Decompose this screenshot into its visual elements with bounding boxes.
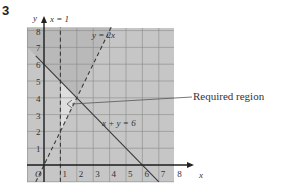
x-tick-label: 2 xyxy=(79,169,84,179)
origin-label: O xyxy=(35,169,42,179)
required-region-label: Required region xyxy=(193,90,265,102)
y-axis-label: y xyxy=(32,13,37,23)
x-tick-label: 3 xyxy=(95,169,100,179)
y-tick-label: 3 xyxy=(36,111,41,121)
line-label-x-plus-y-6: x + y = 6 xyxy=(101,118,136,128)
y-tick-label: 4 xyxy=(36,94,41,104)
y-tick-label: 1 xyxy=(36,144,41,154)
y-tick-label: 5 xyxy=(36,77,41,87)
line-label-x-1: x = 1 xyxy=(49,14,69,24)
x-tick-label: 4 xyxy=(112,169,117,179)
x-tick-label: 7 xyxy=(161,169,166,179)
y-tick-label: 7 xyxy=(36,43,41,53)
x-tick-label: 8 xyxy=(177,169,182,179)
x-axis-arrow-icon xyxy=(187,162,194,168)
inequality-graph: 1234567812345678Oxyx = 1y = 2xx + y = 6 … xyxy=(0,0,281,195)
y-tick-label: 2 xyxy=(36,127,41,137)
x-tick-label: 1 xyxy=(62,169,67,179)
x-tick-label: 5 xyxy=(128,169,133,179)
plot-panel xyxy=(27,27,174,182)
y-axis-arrow-icon xyxy=(41,16,47,23)
line-label-y-2x: y = 2x xyxy=(91,30,115,40)
x-axis-label: x xyxy=(198,170,203,180)
y-tick-label: 8 xyxy=(36,27,41,37)
x-tick-label: 6 xyxy=(144,169,149,179)
y-tick-label: 6 xyxy=(36,60,41,70)
